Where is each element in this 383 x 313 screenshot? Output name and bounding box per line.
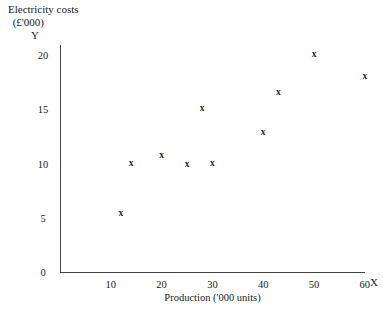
x-axis-letter: X [370,276,378,288]
x-tick-label: 50 [309,279,320,290]
chart-title-line-2: (£'000) [8,16,79,29]
y-tick-label: 20 [38,50,49,61]
scatter-chart: Electricity costs (£'000) Y X 05101520 1… [0,0,383,313]
x-axis-label: Production ('000 units) [60,292,365,303]
data-point: x [261,128,266,138]
data-point: x [159,151,164,161]
x-tick-label: 10 [106,279,117,290]
data-point: x [129,159,134,169]
data-point: x [200,105,205,115]
chart-title: Electricity costs (£'000) [8,3,79,28]
x-tick-label: 60 [360,279,371,290]
data-point: x [312,50,317,60]
y-tick-label: 15 [38,104,49,115]
data-point: x [119,210,124,220]
data-point: x [185,160,190,170]
y-tick-label: 5 [40,212,45,223]
data-point: x [362,72,367,82]
y-tick-label: 10 [38,158,49,169]
data-point: x [210,159,215,169]
y-axis-line [60,45,61,273]
x-tick-label: 40 [258,279,269,290]
data-point: x [276,88,281,98]
chart-title-line-1: Electricity costs [8,3,79,16]
x-axis-line [60,272,365,273]
x-tick-label: 20 [156,279,167,290]
y-axis-letter: Y [31,29,39,41]
y-tick-label: 0 [40,267,45,278]
x-tick-label: 30 [207,279,218,290]
